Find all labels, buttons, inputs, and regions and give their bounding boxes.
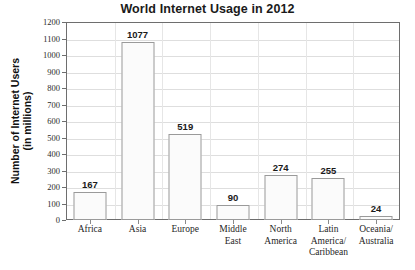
y-axis-tick-label: 300	[34, 166, 60, 176]
y-axis-tick	[62, 220, 66, 221]
x-axis-label: Africa	[66, 224, 114, 236]
bar-value-label: 167	[82, 179, 98, 190]
x-axis-tick	[328, 220, 329, 224]
x-axis-label-line: America/	[305, 236, 353, 248]
x-axis-tick	[185, 220, 186, 224]
bar-slot: 90	[209, 22, 257, 220]
bar-value-label: 90	[228, 192, 239, 203]
bar[interactable]	[169, 134, 202, 220]
y-axis-tick-label: 900	[34, 67, 60, 77]
y-axis-tick-label: 700	[34, 100, 60, 110]
bar[interactable]	[264, 175, 297, 220]
x-axis-tick	[376, 220, 377, 224]
x-axis-label-line: North	[257, 224, 305, 236]
bar-slot: 1077	[114, 22, 162, 220]
y-axis-tick-label: 600	[34, 116, 60, 126]
bar-value-label: 519	[177, 121, 193, 132]
y-axis-tick-label: 100	[34, 199, 60, 209]
y-axis-tick-label: 800	[34, 83, 60, 93]
x-axis-label-line: Caribbean	[305, 247, 353, 259]
bar-series: 16710775199027425524	[66, 22, 400, 220]
bar[interactable]	[312, 178, 345, 220]
x-axis-label-line: Asia	[114, 224, 162, 236]
x-axis-label-line: Europe	[161, 224, 209, 236]
bar-slot: 274	[257, 22, 305, 220]
bar-value-label: 24	[371, 203, 382, 214]
bar-slot: 167	[66, 22, 114, 220]
x-axis-label-line: Middle	[209, 224, 257, 236]
y-axis-title-line-2: (in millions)	[21, 58, 33, 184]
y-axis-tick-label: 1200	[34, 17, 60, 27]
x-axis-tick	[90, 220, 91, 224]
y-axis-tick-label: 500	[34, 133, 60, 143]
x-axis-label: Asia	[114, 224, 162, 236]
x-axis-label-line: Africa	[66, 224, 114, 236]
x-axis-tick	[233, 220, 234, 224]
x-axis-label: MiddleEast	[209, 224, 257, 247]
bar-value-label: 1077	[127, 29, 148, 40]
y-axis-tick-label: 200	[34, 182, 60, 192]
x-axis-label-line: Australia	[352, 236, 400, 248]
x-axis-labels: AfricaAsiaEuropeMiddleEastNorthAmericaLa…	[66, 224, 400, 268]
x-axis-label-line: Oceania/	[352, 224, 400, 236]
y-axis-title-line-1: Number of Internet Users	[9, 58, 21, 184]
bar-value-label: 255	[320, 165, 336, 176]
bar[interactable]	[73, 192, 106, 220]
x-axis-label: Europe	[161, 224, 209, 236]
bar-value-label: 274	[273, 162, 289, 173]
y-axis-tick-label: 0	[34, 215, 60, 225]
x-axis-label: LatinAmerica/Caribbean	[305, 224, 353, 259]
y-axis-tick-label: 1100	[34, 34, 60, 44]
x-axis-tick	[138, 220, 139, 224]
x-axis-label-line: East	[209, 236, 257, 248]
x-axis-label: NorthAmerica	[257, 224, 305, 247]
x-axis-tick	[281, 220, 282, 224]
x-axis-label-line: America	[257, 236, 305, 248]
bar-slot: 519	[161, 22, 209, 220]
y-axis-title: Number of Internet Users (in millions)	[6, 22, 36, 220]
bar[interactable]	[121, 42, 154, 220]
x-axis-label: Oceania/Australia	[352, 224, 400, 247]
y-axis-tick-label: 1000	[34, 50, 60, 60]
bar-slot: 24	[352, 22, 400, 220]
bar-slot: 255	[305, 22, 353, 220]
bar-chart: World Internet Usage in 2012 Number of I…	[0, 0, 415, 270]
chart-title: World Internet Usage in 2012	[0, 2, 415, 16]
y-axis-tick-label: 400	[34, 149, 60, 159]
x-axis-label-line: Latin	[305, 224, 353, 236]
bar[interactable]	[216, 205, 249, 220]
